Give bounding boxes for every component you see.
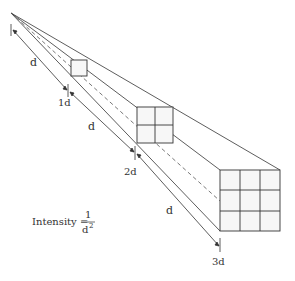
ray-top-left bbox=[11, 13, 220, 170]
formula-numerator: 1 bbox=[85, 209, 91, 220]
label-3d: 3d bbox=[212, 256, 225, 267]
square-2d bbox=[137, 107, 173, 143]
label-d2: d bbox=[88, 120, 95, 133]
ray-top bbox=[11, 13, 280, 170]
square-3d bbox=[220, 170, 280, 231]
label-d1: d bbox=[30, 56, 37, 69]
squares bbox=[71, 60, 280, 231]
label-2d: 2d bbox=[124, 166, 137, 177]
formula-exponent: 2 bbox=[89, 222, 93, 230]
inverse-square-diagram: d 1d d 2d d 3d Intensity = 1 d 2 bbox=[0, 0, 295, 281]
formula-lhs: Intensity = bbox=[32, 216, 88, 227]
center-dashed-line bbox=[11, 13, 220, 201]
formula-denominator: d bbox=[82, 224, 89, 235]
ray-bottom bbox=[11, 13, 220, 231]
label-1d: 1d bbox=[58, 97, 71, 108]
label-d3: d bbox=[166, 204, 173, 217]
intensity-formula: Intensity = 1 d 2 bbox=[32, 209, 95, 235]
square-1d bbox=[71, 60, 87, 76]
